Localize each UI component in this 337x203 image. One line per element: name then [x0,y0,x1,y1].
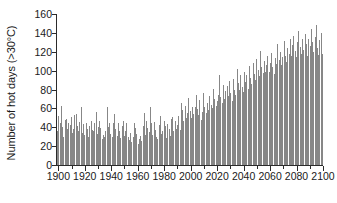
x-axis-tick-label: 2100 [311,170,334,182]
x-axis-tick-labels: 1900192019401960198020002020204020602080… [0,170,337,186]
x-axis-minor-tick-mark [151,166,152,169]
y-axis-tick-label: 0 [26,160,52,170]
x-axis-tick-label: 1980 [153,170,176,182]
y-axis-tick-label: 100 [26,66,52,76]
y-axis-tick-labels: 020406080100120140160 [26,9,52,165]
bar [322,54,323,165]
x-axis-minor-tick-mark [124,166,125,169]
y-axis-label: Number of hot days (>30°C) [2,8,20,178]
y-axis-tick-label: 60 [26,103,52,113]
chart-figure: Number of hot days (>30°C) 0204060801001… [0,0,337,203]
y-axis-tick-mark [52,165,56,166]
y-axis-tick-label: 40 [26,122,52,132]
y-axis-tick-mark [52,14,56,15]
x-axis-minor-tick-mark [283,166,284,169]
x-axis-minor-tick-mark [230,166,231,169]
plot-area [56,14,322,165]
x-axis-tick-label: 2040 [232,170,255,182]
y-axis-tick-mark [52,33,56,34]
y-axis-tick-label: 160 [26,9,52,19]
y-axis-tick-label: 120 [26,47,52,57]
x-axis-tick-label: 2060 [258,170,281,182]
y-axis-tick-label: 80 [26,85,52,95]
bar-series [57,14,323,165]
x-axis-tick-label: 1900 [47,170,70,182]
x-axis-tick-label: 1940 [100,170,123,182]
x-axis-minor-tick-mark [257,166,258,169]
y-axis-tick-mark [52,71,56,72]
y-axis-tick-mark [52,146,56,147]
x-axis-minor-tick-mark [310,166,311,169]
x-axis-minor-tick-mark [204,166,205,169]
x-axis-tick-label: 1960 [126,170,149,182]
x-axis-minor-tick-mark [72,166,73,169]
x-axis-minor-tick-mark [177,166,178,169]
y-axis-tick-mark [52,108,56,109]
x-axis-minor-tick-mark [98,166,99,169]
x-axis-tick-label: 1920 [73,170,96,182]
y-axis-tick-mark [52,127,56,128]
y-axis-tick-mark [52,90,56,91]
y-axis-tick-mark [52,52,56,53]
x-axis-tick-label: 2000 [179,170,202,182]
x-axis-tick-label: 2080 [285,170,308,182]
y-axis-tick-label: 140 [26,28,52,38]
x-axis-tick-label: 2020 [205,170,228,182]
y-axis-tick-label: 20 [26,141,52,151]
